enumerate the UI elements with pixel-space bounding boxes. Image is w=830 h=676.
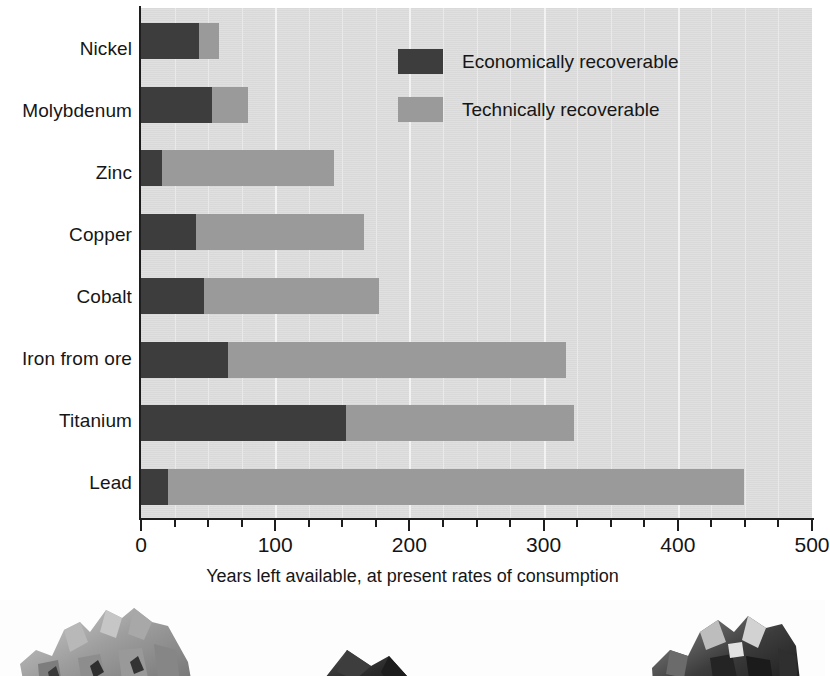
legend-label-technically-recoverable: Technically recoverable <box>462 100 660 119</box>
segment-technically-recoverable <box>196 214 364 250</box>
x-tick-200 <box>408 520 410 531</box>
y-axis-line <box>139 6 141 520</box>
segment-technically-recoverable <box>346 405 574 441</box>
segment-economically-recoverable <box>141 405 346 441</box>
category-label-iron-from-ore: Iron from ore <box>0 349 132 368</box>
x-tick-0 <box>140 520 142 531</box>
category-label-molybdenum: Molybdenum <box>0 101 132 120</box>
segment-economically-recoverable <box>141 23 199 59</box>
bar-molybdenum <box>141 87 248 123</box>
chart-legend: Economically recoverable Technically rec… <box>398 44 679 140</box>
category-axis-labels: Nickel Molybdenum Zinc Copper Cobalt Iro… <box>0 8 132 518</box>
stacked-bar-chart: Nickel Molybdenum Zinc Copper Cobalt Iro… <box>0 0 825 600</box>
segment-technically-recoverable <box>212 87 248 123</box>
legend-item-technically-recoverable: Technically recoverable <box>398 92 679 126</box>
category-label-cobalt: Cobalt <box>0 287 132 306</box>
x-tick-label-100: 100 <box>258 534 293 556</box>
x-tick-25 <box>174 520 176 527</box>
bar-cobalt <box>141 278 379 314</box>
category-label-copper: Copper <box>0 225 132 244</box>
bar-nickel <box>141 23 219 59</box>
gridline-75 <box>242 8 243 518</box>
x-tick-75 <box>241 520 243 527</box>
x-axis-title: Years left available, at present rates o… <box>0 566 825 586</box>
x-tick-350 <box>610 520 612 527</box>
plot-area: Economically recoverable Technically rec… <box>141 8 812 518</box>
segment-economically-recoverable <box>141 469 168 505</box>
x-tick-275 <box>509 520 511 527</box>
ore-photo-strip <box>0 600 825 676</box>
x-tick-475 <box>777 520 779 527</box>
bar-iron-from-ore <box>141 342 566 378</box>
x-tick-label-200: 200 <box>392 534 427 556</box>
x-tick-label-500: 500 <box>794 534 829 556</box>
gridline-150 <box>342 8 343 518</box>
legend-swatch-dark-icon <box>398 49 443 74</box>
bar-copper <box>141 214 364 250</box>
ore-sample-left-photo <box>18 600 208 676</box>
gridline-475 <box>778 8 779 518</box>
category-label-nickel: Nickel <box>0 39 132 58</box>
x-tick-125 <box>308 520 310 527</box>
bar-lead <box>141 469 744 505</box>
x-tick-label-300: 300 <box>526 534 561 556</box>
segment-economically-recoverable <box>141 150 162 186</box>
x-tick-500 <box>811 520 813 531</box>
segment-economically-recoverable <box>141 87 212 123</box>
legend-swatch-light-icon <box>398 97 443 122</box>
x-tick-150 <box>341 520 343 527</box>
gridline-450 <box>745 8 746 518</box>
x-tick-50 <box>207 520 209 527</box>
segment-technically-recoverable <box>162 150 334 186</box>
bar-titanium <box>141 405 574 441</box>
x-tick-400 <box>677 520 679 531</box>
x-tick-label-400: 400 <box>660 534 695 556</box>
x-tick-325 <box>576 520 578 527</box>
gridline-50 <box>208 8 209 518</box>
x-tick-label-0: 0 <box>135 534 147 556</box>
bar-zinc <box>141 150 334 186</box>
x-tick-175 <box>375 520 377 527</box>
category-label-titanium: Titanium <box>0 411 132 430</box>
segment-technically-recoverable <box>228 342 566 378</box>
category-label-zinc: Zinc <box>0 163 132 182</box>
gridline-175 <box>376 8 377 518</box>
x-tick-450 <box>744 520 746 527</box>
segment-economically-recoverable <box>141 278 204 314</box>
x-tick-225 <box>442 520 444 527</box>
segment-technically-recoverable <box>204 278 378 314</box>
x-tick-375 <box>643 520 645 527</box>
segment-technically-recoverable <box>199 23 219 59</box>
gridline-100 <box>275 8 277 518</box>
segment-economically-recoverable <box>141 214 196 250</box>
gridline-25 <box>175 8 176 518</box>
x-tick-425 <box>710 520 712 527</box>
x-tick-300 <box>543 520 545 531</box>
ore-sample-center-photo <box>285 606 435 676</box>
legend-item-economically-recoverable: Economically recoverable <box>398 44 679 78</box>
segment-technically-recoverable <box>168 469 744 505</box>
gridline-425 <box>711 8 712 518</box>
legend-label-economically-recoverable: Economically recoverable <box>462 52 679 71</box>
x-tick-250 <box>476 520 478 527</box>
gridline-125 <box>309 8 310 518</box>
category-label-lead: Lead <box>0 473 132 492</box>
ore-sample-right-photo <box>648 600 808 676</box>
segment-economically-recoverable <box>141 342 228 378</box>
x-tick-100 <box>274 520 276 531</box>
